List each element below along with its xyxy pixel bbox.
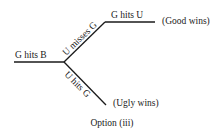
label-g-hits-b: G hits B bbox=[15, 50, 47, 60]
label-u-hits-g: U hits G bbox=[63, 69, 93, 99]
label-u-misses-g: U misses G bbox=[60, 20, 99, 58]
outcome-ugly-wins: (Ugly wins) bbox=[113, 98, 159, 109]
label-g-hits-u: G hits U bbox=[111, 10, 143, 20]
figure-caption: Option (iii) bbox=[0, 118, 224, 128]
outcome-good-wins: (Good wins) bbox=[162, 16, 210, 27]
event-tree-diagram: G hits B U misses G G hits U (Good wins)… bbox=[0, 0, 224, 135]
